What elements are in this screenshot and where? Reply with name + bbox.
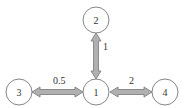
edge-2-1: 1: [91, 33, 108, 79]
network-diagram: 1 0.5 2 1 2 3 4: [0, 0, 185, 108]
node-3: 3: [6, 79, 32, 105]
edge-1-4: 2: [110, 75, 152, 97]
edge-label: 1: [103, 41, 108, 52]
edge-label: 2: [129, 75, 134, 86]
node-label: 4: [163, 87, 168, 98]
node-2: 2: [83, 7, 109, 33]
node-4: 4: [152, 79, 178, 105]
node-label: 3: [17, 87, 22, 98]
diagram-svg: 1 0.5 2 1 2 3 4: [0, 0, 185, 108]
node-label: 2: [94, 15, 99, 26]
node-1: 1: [83, 79, 109, 105]
edge-3-1: 0.5: [32, 75, 83, 97]
node-label: 1: [94, 87, 99, 98]
edge-label: 0.5: [53, 75, 66, 86]
